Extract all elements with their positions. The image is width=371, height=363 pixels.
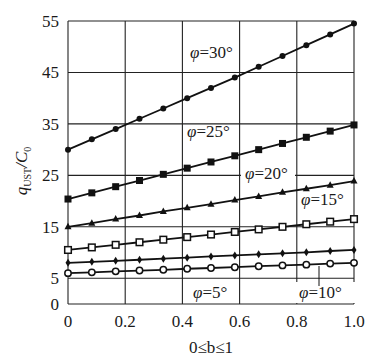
data-point-marker (255, 226, 262, 233)
data-point-marker (352, 246, 357, 254)
data-point-marker (351, 21, 357, 27)
series-label: φ=25° (187, 122, 230, 141)
series-label: φ=10° (299, 283, 342, 302)
x-tick-label: 0.2 (115, 312, 136, 331)
data-point-marker (208, 231, 215, 238)
data-point-marker (351, 177, 358, 184)
x-tick-label: 0.8 (286, 312, 307, 331)
data-point-marker (327, 218, 334, 225)
chart: 00.20.40.60.81.0051525354555 φ=30°φ=25°φ… (0, 0, 371, 363)
data-point-marker (327, 260, 333, 266)
data-point-marker (137, 116, 143, 122)
y-tick-label: 55 (42, 12, 59, 31)
y-tick-label: 35 (42, 115, 59, 134)
data-point-marker (65, 247, 72, 254)
data-point-marker (185, 254, 190, 262)
y-tick-label: 5 (51, 269, 60, 288)
series-label: φ=5° (193, 283, 227, 302)
data-point-marker (89, 269, 95, 275)
data-point-marker (279, 262, 285, 268)
data-point-marker (184, 234, 191, 241)
y-tick-label: 15 (42, 218, 59, 237)
data-point-marker (303, 261, 309, 267)
data-point-marker (351, 260, 357, 266)
data-point-marker (232, 264, 238, 270)
data-point-marker (279, 140, 286, 147)
data-point-marker (304, 248, 309, 256)
data-point-marker (232, 251, 237, 259)
x-tick-label: 1.0 (343, 312, 364, 331)
data-point-marker (161, 255, 166, 263)
y-tick-label: 45 (42, 63, 59, 82)
data-point-marker (112, 183, 119, 190)
data-point-marker (160, 171, 167, 178)
y-tick-label: 25 (42, 166, 59, 185)
data-point-marker (279, 224, 286, 231)
series-label: φ=30° (190, 43, 233, 62)
data-point-marker (112, 268, 118, 274)
data-point-marker (303, 134, 310, 141)
data-point-marker (112, 242, 119, 249)
data-point-marker (351, 216, 358, 223)
y-tick-label: 0 (51, 295, 60, 314)
data-point-marker (209, 252, 214, 260)
data-point-marker (256, 64, 262, 70)
data-point-marker (232, 75, 238, 81)
data-point-marker (137, 256, 142, 264)
y-axis-label: qUST/C0 (12, 147, 33, 195)
data-point-marker (303, 221, 310, 228)
x-tick-label: 0.6 (229, 312, 250, 331)
data-point-marker (327, 128, 334, 135)
series-label: φ=15° (301, 190, 344, 209)
data-point-marker (65, 147, 71, 153)
data-point-marker (184, 165, 191, 172)
data-point-marker (89, 136, 95, 142)
data-point-marker (66, 259, 71, 267)
data-point-marker (184, 266, 190, 272)
data-point-marker (136, 267, 142, 273)
data-point-marker (89, 258, 94, 266)
data-point-marker (351, 121, 358, 128)
data-point-marker (328, 247, 333, 255)
data-point-marker (184, 95, 190, 101)
data-point-marker (65, 196, 72, 203)
data-point-marker (89, 244, 96, 251)
data-point-marker (255, 263, 261, 269)
data-point-marker (160, 105, 166, 111)
x-axis-label: 0≤b≤1 (189, 338, 233, 357)
data-point-marker (327, 31, 333, 37)
data-point-marker (232, 229, 239, 236)
data-point-marker (208, 158, 215, 165)
data-point-marker (208, 265, 214, 271)
data-point-marker (136, 239, 143, 246)
data-point-marker (255, 146, 262, 153)
series-label: φ=20° (245, 164, 288, 183)
data-point-marker (160, 267, 166, 273)
data-point-marker (160, 236, 167, 243)
data-point-marker (280, 249, 285, 257)
data-point-marker (113, 126, 119, 132)
data-point-marker (113, 257, 118, 265)
data-point-marker (303, 42, 309, 48)
data-point-marker (280, 53, 286, 59)
data-point-marker (136, 177, 143, 184)
data-point-marker (256, 250, 261, 258)
x-tick-label: 0 (64, 312, 73, 331)
data-point-marker (231, 152, 238, 159)
data-point-marker (65, 270, 71, 276)
x-tick-label: 0.4 (172, 312, 194, 331)
data-point-marker (208, 85, 214, 91)
data-point-marker (88, 189, 95, 196)
